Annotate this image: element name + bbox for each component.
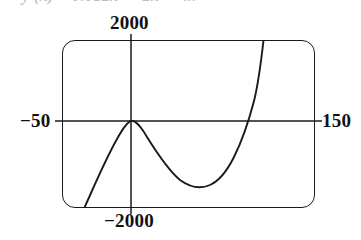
y-min-label: −2000 [104, 210, 154, 232]
x-min-label: −50 [20, 110, 50, 132]
y-max-label: 2000 [110, 12, 149, 34]
curve-group [78, 36, 264, 222]
curve-path [78, 36, 264, 222]
x-max-label: 150 [322, 110, 351, 132]
graph-figure: y (x) = 0.012x³ − 2x² − ... 2000 −2000 −… [0, 0, 361, 240]
plot-canvas [0, 0, 361, 240]
